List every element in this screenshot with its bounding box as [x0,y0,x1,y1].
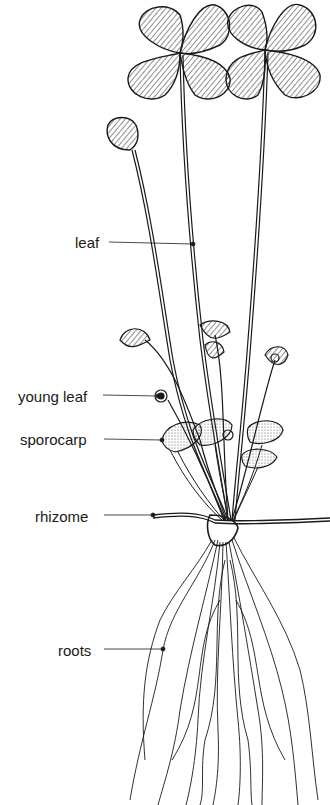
label-leaf: leaf [75,235,99,250]
label-rhizome: rhizome [35,509,88,524]
roots [130,538,318,805]
mature-leaves [107,4,320,150]
label-young-leaf: young leaf [18,389,87,404]
sporocarps [162,419,283,468]
rhizome [153,513,330,545]
label-sporocarp: sporocarp [20,432,87,447]
label-roots: roots [58,643,91,658]
